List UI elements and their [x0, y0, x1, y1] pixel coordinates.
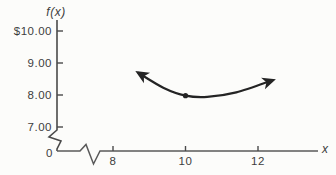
minimum-point-dot — [183, 93, 188, 98]
chart-canvas: $10.009.008.007.00 81012 f(x) x 0 — [0, 0, 336, 175]
x-tick-label: 10 — [179, 155, 193, 167]
y-axis-title: f(x) — [46, 5, 65, 19]
y-tick-label: 7.00 — [28, 121, 52, 133]
fx-curve — [138, 73, 272, 97]
x-axis-title: x — [321, 142, 329, 156]
y-axis-ticks: $10.009.008.007.00 — [14, 25, 63, 133]
cost-curve-figure: $10.009.008.007.00 81012 f(x) x 0 — [0, 0, 336, 175]
curve-layer — [138, 73, 272, 98]
y-tick-label: 9.00 — [28, 57, 52, 69]
y-tick-label: 8.00 — [28, 89, 52, 101]
x-tick-label: 12 — [251, 155, 265, 167]
origin-label: 0 — [46, 147, 53, 159]
y-tick-label: $10.00 — [14, 25, 52, 37]
x-tick-label: 8 — [110, 155, 117, 167]
x-axis-ticks: 81012 — [110, 146, 265, 167]
